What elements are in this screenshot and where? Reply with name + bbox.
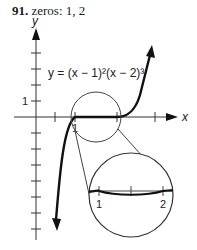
y-tick-label: 1 (22, 95, 28, 107)
x-axis-arrow-icon (166, 113, 178, 121)
x-axis-label: x (181, 110, 189, 124)
curve-up-arrow-icon (146, 45, 155, 58)
inset-label-1: 1 (96, 198, 102, 210)
y-axis (31, 28, 41, 240)
y-axis-label: y (31, 14, 39, 28)
inset-label-2: 2 (160, 198, 166, 210)
curve-down-arrow-icon (52, 218, 61, 231)
y-axis-arrow-icon (32, 28, 40, 40)
equation-label: y = (x − 1)²(x − 2)³ (48, 66, 144, 80)
function-graph: y 1 x 1 y = (x − 1)²(x − 2)³ 1 2 (0, 0, 197, 250)
inset-zoom (89, 153, 173, 237)
